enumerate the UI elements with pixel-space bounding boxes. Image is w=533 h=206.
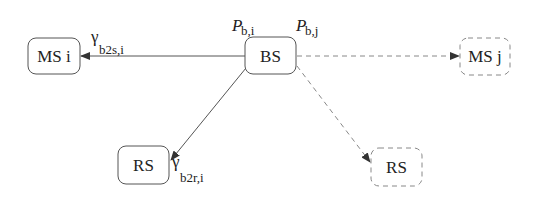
label-p-b-i-sub: b,i bbox=[241, 23, 255, 38]
label-p-b-i: P b,i bbox=[231, 16, 255, 38]
node-bs-label: BS bbox=[260, 47, 281, 66]
edge-bs-to-rs-right bbox=[297, 66, 370, 162]
label-gamma-b2r-i-main: γ bbox=[171, 152, 180, 171]
label-p-b-j: P b,j bbox=[295, 16, 318, 38]
node-ms-i: MS i bbox=[28, 38, 80, 74]
network-diagram: MS i BS MS j RS RS γ b2s,i γ b2r,i P b,i… bbox=[0, 0, 533, 206]
node-ms-j-label: MS j bbox=[468, 47, 502, 66]
node-rs-left: RS bbox=[118, 146, 169, 184]
node-ms-i-label: MS i bbox=[37, 47, 71, 66]
node-rs-left-label: RS bbox=[133, 156, 154, 175]
node-ms-j: MS j bbox=[460, 38, 510, 75]
node-rs-right: RS bbox=[371, 148, 422, 186]
label-gamma-b2r-i-sub: b2r,i bbox=[180, 170, 204, 185]
label-p-b-j-sub: b,j bbox=[305, 23, 318, 38]
node-rs-right-label: RS bbox=[386, 158, 407, 177]
label-gamma-b2s-i-main: γ bbox=[90, 27, 99, 46]
label-gamma-b2s-i: γ b2s,i bbox=[90, 27, 124, 57]
node-bs: BS bbox=[245, 37, 296, 74]
label-gamma-b2r-i: γ b2r,i bbox=[171, 152, 204, 185]
edge-bs-to-rs-left bbox=[171, 68, 246, 160]
label-gamma-b2s-i-sub: b2s,i bbox=[99, 42, 124, 57]
